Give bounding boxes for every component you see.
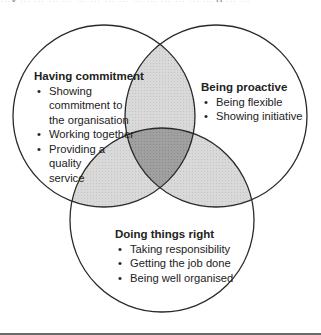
line: Showing <box>49 85 92 97</box>
set-items: Taking responsibility Getting the job do… <box>115 242 255 286</box>
line: commitment to <box>49 99 122 111</box>
set-title: Having commitment <box>34 69 144 84</box>
set-doing-things-right: Doing things right Taking responsibility… <box>115 227 255 285</box>
line: Working together <box>49 128 134 140</box>
list-item: Being flexible <box>201 95 311 110</box>
list-item: Providing a quality service <box>34 142 144 186</box>
list-item: Getting the job done <box>115 256 255 271</box>
line: the organisation <box>49 114 129 126</box>
set-being-proactive: Being proactive Being flexible Showing i… <box>201 80 311 124</box>
line: Providing a <box>49 143 105 155</box>
set-items: Showing commitment to the organisation W… <box>34 84 144 186</box>
set-items: Being flexible Showing initiative <box>201 95 311 124</box>
set-title: Doing things right <box>115 227 255 242</box>
list-item: Showing commitment to the organisation <box>34 84 144 128</box>
list-item: Taking responsibility <box>115 242 255 257</box>
list-item: Working together <box>34 127 144 142</box>
list-item: Being well organised <box>115 271 255 286</box>
line: quality <box>49 157 81 169</box>
set-title: Being proactive <box>201 80 311 95</box>
set-having-commitment: Having commitment Showing commitment to … <box>34 69 144 185</box>
line: service <box>49 172 84 184</box>
list-item: Showing initiative <box>201 109 311 124</box>
